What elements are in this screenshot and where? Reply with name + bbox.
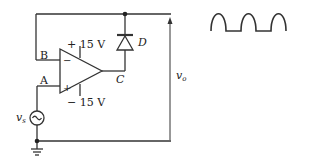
diode-label: D	[137, 36, 147, 49]
source-label: vs	[16, 111, 26, 125]
ground-junction-dot	[35, 139, 40, 144]
positive-supply-label: + 15 V	[67, 38, 106, 51]
junction-dot	[123, 12, 128, 17]
circuit-diagram: + 15 V − 15 V B A C − + D vs vo	[0, 0, 309, 167]
negative-supply-label: − 15 V	[67, 96, 106, 109]
output-label: vo	[176, 69, 186, 83]
rectified-waveform	[211, 14, 286, 31]
noninverting-sign: +	[63, 82, 71, 93]
diode-symbol	[117, 36, 133, 50]
node-b-label: B	[40, 49, 48, 62]
arrow-head-icon	[168, 17, 173, 24]
node-a-label: A	[39, 74, 49, 87]
inverting-sign: −	[63, 55, 71, 66]
sine-glyph-icon	[33, 116, 42, 120]
node-c-label: C	[116, 73, 125, 86]
